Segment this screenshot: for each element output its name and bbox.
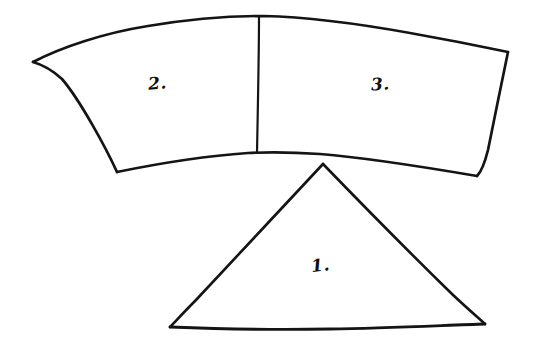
- curved-band-shape: [33, 16, 508, 176]
- region-label-1: 1.: [310, 256, 330, 275]
- region-label-3: 3.: [371, 76, 391, 94]
- sketch-drawing: [0, 0, 540, 353]
- region-label-2: 2.: [147, 74, 167, 92]
- sketch-canvas: 2. 3. 1.: [0, 0, 540, 353]
